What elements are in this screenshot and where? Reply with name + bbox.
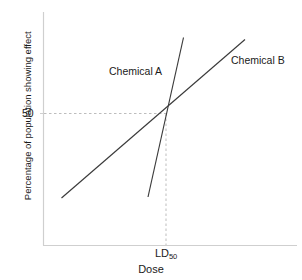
y-tick-label-50: 50 <box>22 108 34 119</box>
ld50-subscript: 50 <box>169 252 177 261</box>
x-axis-title: Dose <box>0 264 302 275</box>
chemical-a-label: Chemical A <box>109 66 162 77</box>
ld50-main-text: LD <box>155 247 169 259</box>
ld50-tick-label: LD50 <box>134 248 198 259</box>
dose-response-chart: Percentage of population showing effect … <box>0 0 302 280</box>
chart-canvas <box>0 0 302 280</box>
chemical-a-line <box>148 38 184 198</box>
chemical-b-label: Chemical B <box>231 55 285 66</box>
